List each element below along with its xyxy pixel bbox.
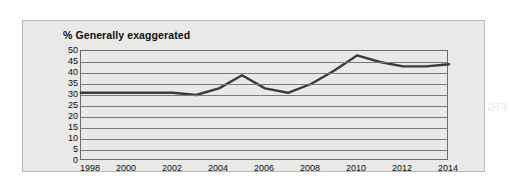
x-tick-label: 2004 [208,163,228,173]
gridline [81,95,447,96]
gridline [81,73,447,74]
y-tick-label: 40 [32,68,78,77]
x-axis-labels: 199820002002200420062008201020122014 [80,163,448,175]
x-tick-label: 2000 [116,163,136,173]
x-tick-label: 2014 [438,163,458,173]
y-tick-label: 20 [32,112,78,121]
y-tick-label: 10 [32,134,78,143]
y-axis-labels: 50454035302520151050 [28,50,78,160]
gridline [81,106,447,107]
chart-title: % Generally exaggerated [63,29,190,41]
gridline [81,62,447,63]
gridline [81,84,447,85]
gridline [81,128,447,129]
y-tick-label: 15 [32,123,78,132]
x-tick-label: 2010 [346,163,366,173]
y-tick-label: 25 [32,101,78,110]
x-tick-label: 2008 [300,163,320,173]
x-tick-label: 1998 [80,163,100,173]
gridline [81,150,447,151]
gridline [81,117,447,118]
y-tick-label: 0 [32,156,78,165]
x-tick-label: 2006 [254,163,274,173]
gridline [81,139,447,140]
chart-panel: % Generally exaggerated 5045403530252015… [22,20,485,172]
y-tick-label: 30 [32,90,78,99]
y-tick-label: 45 [32,57,78,66]
x-tick-label: 2012 [392,163,412,173]
y-tick-label: 35 [32,79,78,88]
y-tick-label: 50 [32,46,78,55]
plot-area [80,50,448,160]
x-tick-label: 2002 [162,163,182,173]
y-tick-label: 5 [32,145,78,154]
